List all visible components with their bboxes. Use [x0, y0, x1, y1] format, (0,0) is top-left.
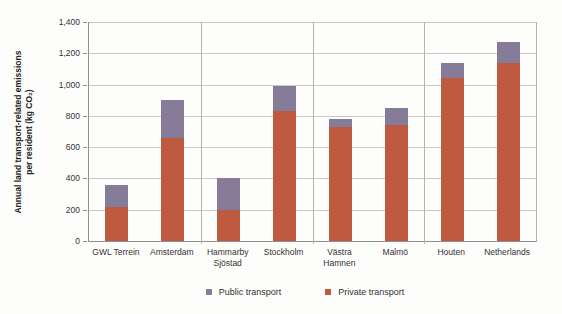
- x-label-houten: Houten: [422, 247, 480, 258]
- bar-segment-public-transport: [497, 42, 520, 62]
- bar-gwl-terrein: [105, 185, 128, 241]
- y-tick-mark: [83, 85, 87, 86]
- group-separator: [424, 22, 425, 244]
- x-label-hammarby-sj-stad: Hammarby Sjöstad: [199, 247, 257, 268]
- bar-segment-private-transport: [441, 78, 464, 241]
- y-tick-mark: [83, 147, 87, 148]
- bar-segment-private-transport: [329, 127, 352, 241]
- bar-segment-private-transport: [161, 138, 184, 241]
- x-label-gwl-terrein: GWL Terrein: [87, 247, 145, 258]
- group-separator: [313, 22, 314, 244]
- bar-hammarby-sj-stad: [217, 178, 240, 241]
- y-tick-label: 200: [36, 205, 80, 215]
- y-tick-label: 1,000: [36, 80, 80, 90]
- y-axis-title-line2: per resident (kg CO₂): [24, 22, 35, 242]
- y-axis-title-line1: Annual land transport-related emissions: [13, 22, 24, 242]
- legend-item-public-transport: Public transport: [206, 287, 282, 297]
- y-tick-label: 1,400: [36, 17, 80, 27]
- y-tick-mark: [83, 22, 87, 23]
- bar-netherlands: [497, 42, 520, 241]
- x-label-malm-: Malmö: [366, 247, 424, 258]
- plot-area: [88, 22, 537, 242]
- bar-segment-public-transport: [161, 100, 184, 138]
- y-tick-label: 400: [36, 173, 80, 183]
- bar-segment-private-transport: [273, 111, 296, 241]
- x-label-stockholm: Stockholm: [255, 247, 313, 258]
- bar-segment-private-transport: [217, 210, 240, 241]
- legend-label: Private transport: [338, 287, 404, 297]
- legend-item-private-transport: Private transport: [325, 287, 404, 297]
- bar-segment-public-transport: [217, 178, 240, 209]
- bar-houten: [441, 63, 464, 241]
- bar-segment-public-transport: [273, 86, 296, 111]
- bar-segment-private-transport: [497, 63, 520, 241]
- bar-amsterdam: [161, 100, 184, 241]
- bar-v-stra-hamnen: [329, 119, 352, 241]
- bar-segment-public-transport: [329, 119, 352, 127]
- bar-segment-private-transport: [385, 125, 408, 241]
- bar-segment-public-transport: [105, 185, 128, 207]
- bar-stockholm: [273, 86, 296, 241]
- y-tick-mark: [83, 210, 87, 211]
- y-tick-label: 1,200: [36, 48, 80, 58]
- y-tick-mark: [83, 241, 87, 242]
- bar-malm-: [385, 108, 408, 241]
- emissions-bar-chart: Annual land transport-related emissions …: [0, 0, 562, 314]
- x-label-netherlands: Netherlands: [478, 247, 536, 258]
- bar-segment-private-transport: [105, 207, 128, 241]
- y-tick-mark: [83, 116, 87, 117]
- y-tick-mark: [83, 178, 87, 179]
- group-separator: [201, 22, 202, 244]
- bar-segment-public-transport: [385, 108, 408, 125]
- x-label-v-stra-hamnen: Västra Hamnen: [310, 247, 368, 268]
- x-label-amsterdam: Amsterdam: [143, 247, 201, 258]
- y-tick-mark: [83, 53, 87, 54]
- bar-segment-public-transport: [441, 63, 464, 79]
- chart-legend: Public transportPrivate transport: [0, 287, 562, 297]
- legend-swatch-private-transport: [325, 289, 331, 295]
- legend-label: Public transport: [219, 287, 282, 297]
- y-axis-title: Annual land transport-related emissions …: [13, 22, 35, 242]
- y-tick-label: 800: [36, 111, 80, 121]
- y-tick-label: 600: [36, 142, 80, 152]
- legend-swatch-public-transport: [206, 289, 212, 295]
- y-tick-label: 0: [36, 236, 80, 246]
